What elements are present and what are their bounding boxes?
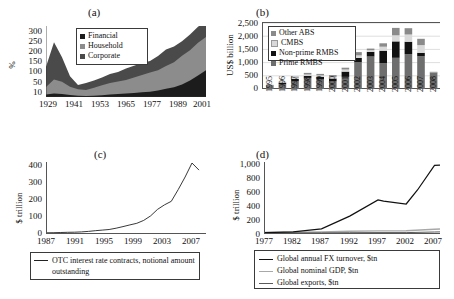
panel-b-legend-label-cmbs: CMBS bbox=[281, 38, 303, 48]
panel-d-xtick-2007: 2007 bbox=[415, 237, 451, 245]
panel-a-ytick-50: 50 bbox=[20, 78, 42, 86]
panel-b-legend-item-cmbs: CMBS bbox=[271, 38, 353, 48]
panel-b-xtick-1997: 1997 bbox=[291, 76, 299, 92]
panel-d-legend-label-fx: Global annual FX turnover, $tn bbox=[277, 254, 377, 264]
panel-c: (c) $ trillion 400 300 200 100 0 1987 19… bbox=[0, 148, 220, 299]
panel-a-ytick-200: 200 bbox=[20, 47, 42, 55]
panel-b-xtick-2006: 2006 bbox=[405, 76, 413, 92]
panel-b-legend-swatch-prime-rmbs bbox=[271, 61, 276, 66]
panel-b-xtick-2000: 2000 bbox=[329, 76, 337, 92]
panel-c-y-axis-label: $ trillion bbox=[14, 180, 24, 236]
panel-d: (d) $ trillion 1,000 800 600 400 200 0 1… bbox=[220, 148, 454, 299]
panel-a-legend-label-household: Household bbox=[88, 41, 123, 51]
panel-a-legend-label-corporate: Corporate bbox=[88, 51, 120, 61]
panel-c-series-otc-line bbox=[47, 163, 199, 233]
panel-c-line-svg bbox=[47, 162, 206, 233]
panel-a-ytick-300: 300 bbox=[20, 27, 42, 35]
panel-b-legend-label-prime-rmbs: Prime RMBS bbox=[279, 58, 322, 68]
panel-b-label: (b) bbox=[256, 6, 269, 18]
panel-d-legend-line-exports bbox=[259, 283, 273, 284]
panel-d-legend-item-fx: Global annual FX turnover, $tn bbox=[259, 253, 435, 265]
panel-a-legend-item-corporate: Corporate bbox=[80, 51, 144, 61]
panel-d-plot-area bbox=[264, 162, 440, 234]
panel-d-line-svg bbox=[265, 162, 440, 233]
panel-d-legend-line-fx bbox=[259, 259, 273, 260]
panel-a-legend-swatch-financial bbox=[80, 34, 85, 39]
panel-b-xtick-1999: 1999 bbox=[316, 76, 324, 92]
panel-d-legend-line-gdp bbox=[259, 271, 273, 272]
panel-b-ytick-2000: 2,000 bbox=[228, 32, 258, 40]
panel-b-ytick-2500: 2,500 bbox=[228, 19, 258, 27]
panel-d-legend-label-exports: Global exports, $tn bbox=[277, 278, 339, 288]
panel-a-legend-swatch-household bbox=[80, 44, 85, 49]
panel-a-ytick-10: 10 bbox=[20, 88, 42, 96]
panel-b-xtick-1995: 1995 bbox=[266, 76, 274, 92]
panel-b-xtick-2008: 2008 bbox=[430, 76, 438, 92]
panel-a-label: (a) bbox=[88, 6, 100, 18]
panel-d-legend-item-exports: Global exports, $tn bbox=[259, 277, 435, 289]
panel-b: (b) US$ billion 2,500 2,000 1,500 1,000 … bbox=[220, 0, 454, 148]
panel-a-ytick-250: 250 bbox=[20, 37, 42, 45]
panel-a-legend-swatch-corporate bbox=[80, 54, 85, 59]
panel-a-y-axis-label: % bbox=[7, 50, 17, 80]
panel-d-series-fx-line bbox=[265, 165, 440, 233]
panel-d-legend: Global annual FX turnover, $tn Global no… bbox=[254, 250, 440, 289]
panel-b-xtick-2003: 2003 bbox=[367, 76, 375, 92]
panel-b-legend-swatch-cmbs bbox=[271, 40, 278, 47]
panel-a-legend-label-financial: Financial bbox=[88, 31, 118, 41]
panel-c-ytick-300: 300 bbox=[18, 178, 42, 186]
panel-b-ytick-0: 0 bbox=[228, 84, 258, 92]
panel-a-legend: Financial Household Corporate bbox=[76, 28, 148, 65]
panel-c-xtick-2007: 2007 bbox=[173, 237, 209, 245]
panel-c-plot-area bbox=[46, 162, 206, 234]
panel-b-legend-item-prime-rmbs: Prime RMBS bbox=[271, 58, 353, 68]
panel-b-xtick-2002: 2002 bbox=[354, 76, 362, 92]
figure-four-panel: (a) % 300 250 200 150 100 50 10 bbox=[0, 0, 454, 299]
panel-b-legend-swatch-non-prime-rmbs bbox=[271, 51, 276, 56]
panel-b-xtick-2004: 2004 bbox=[379, 76, 387, 92]
panel-a-ytick-150: 150 bbox=[20, 57, 42, 65]
panel-b-legend-item-non-prime-rmbs: Non-prime RMBS bbox=[271, 48, 353, 58]
panel-c-legend-item-otc: OTC interest rate contracts, notional am… bbox=[34, 255, 196, 277]
panel-b-ytick-1500: 1,500 bbox=[228, 45, 258, 53]
panel-b-xtick-2001: 2001 bbox=[342, 76, 350, 92]
panel-c-legend-label-otc: OTC interest rate contracts, notional am… bbox=[52, 255, 196, 277]
panel-a-legend-item-financial: Financial bbox=[80, 31, 144, 41]
panel-d-ytick-400: 400 bbox=[228, 202, 260, 210]
panel-b-legend: Other ABS CMBS Non-prime RMBS Prime RMBS bbox=[268, 26, 356, 61]
panel-a: (a) % 300 250 200 150 100 50 10 bbox=[0, 0, 220, 148]
panel-d-legend-label-gdp: Global nominal GDP, $tn bbox=[277, 266, 358, 276]
panel-c-legend-line-otc bbox=[34, 260, 48, 261]
panel-b-ytick-1000: 1,000 bbox=[228, 58, 258, 66]
panel-b-xtick-2005: 2005 bbox=[392, 76, 400, 92]
panel-a-xtick-2001: 2001 bbox=[184, 100, 220, 108]
panel-b-xtick-2007: 2007 bbox=[417, 76, 425, 92]
panel-c-label: (c) bbox=[94, 148, 106, 160]
panel-c-legend: OTC interest rate contracts, notional am… bbox=[30, 252, 200, 280]
panel-a-ytick-100: 100 bbox=[20, 67, 42, 75]
panel-c-ytick-100: 100 bbox=[18, 212, 42, 220]
panel-b-legend-label-other-abs: Other ABS bbox=[279, 28, 314, 38]
panel-d-ytick-600: 600 bbox=[228, 188, 260, 196]
panel-d-ytick-200: 200 bbox=[228, 216, 260, 224]
panel-b-legend-item-other-abs: Other ABS bbox=[271, 28, 353, 38]
panel-b-legend-swatch-other-abs bbox=[271, 31, 276, 36]
panel-b-legend-label-non-prime-rmbs: Non-prime RMBS bbox=[279, 48, 338, 58]
panel-b-ytick-500: 500 bbox=[228, 71, 258, 79]
panel-c-ytick-400: 400 bbox=[18, 161, 42, 169]
panel-d-legend-item-gdp: Global nominal GDP, $tn bbox=[259, 265, 435, 277]
panel-d-ytick-800: 800 bbox=[228, 174, 260, 182]
panel-b-xtick-1996: 1996 bbox=[279, 76, 287, 92]
panel-c-ytick-200: 200 bbox=[18, 195, 42, 203]
panel-b-xtick-1998: 1998 bbox=[304, 76, 312, 92]
panel-d-ytick-1000: 1,000 bbox=[228, 160, 260, 168]
panel-a-legend-item-household: Household bbox=[80, 41, 144, 51]
